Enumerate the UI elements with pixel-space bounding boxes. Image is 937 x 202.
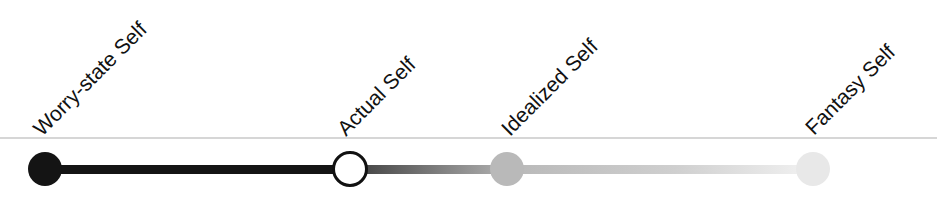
node-idealized-self (490, 152, 524, 186)
label-idealized-self: Idealized Self (497, 35, 601, 139)
node-actual-self (332, 151, 368, 187)
label-actual-self: Actual Self (333, 53, 419, 139)
label-fantasy-self: Fantasy Self (801, 41, 898, 138)
segment-idealized-to-fantasy (507, 165, 813, 174)
node-fantasy-self (796, 152, 830, 186)
node-worry-state-self (28, 152, 62, 186)
segment-actual-to-idealized (367, 165, 507, 174)
horizontal-rule (0, 137, 937, 139)
label-worry-state-self: Worry-state Self (29, 18, 150, 139)
segment-worry-to-actual (45, 165, 350, 174)
